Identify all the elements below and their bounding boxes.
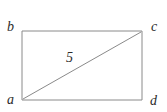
vertex-label-b: b [7,20,14,34]
vertex-label-c: c [151,20,157,34]
vertex-label-d: d [150,94,157,108]
diagonal-line-ac [23,32,141,99]
figure-canvas [0,0,167,112]
diagonal-length-label: 5 [66,51,73,65]
vertex-label-a: a [7,93,14,107]
geometry-figure: b c a d 5 [0,0,167,112]
